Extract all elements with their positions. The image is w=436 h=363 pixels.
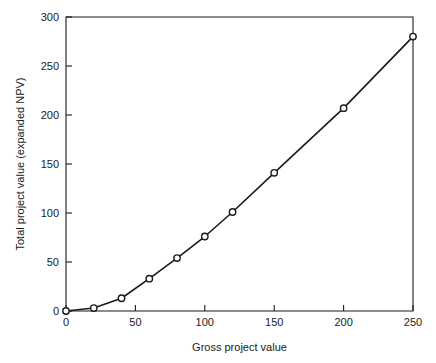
x-tick-label: 0 [63,316,69,328]
data-point-marker [91,305,97,311]
y-tick-label: 250 [41,60,59,72]
x-tick-label: 50 [129,316,141,328]
data-point-marker [118,295,124,301]
x-tick-label: 200 [334,316,352,328]
y-tick-label: 300 [41,11,59,23]
y-tick-label: 0 [53,305,59,317]
data-series-line [66,37,413,311]
y-axis-title: Total project value (expanded NPV) [14,77,26,250]
data-point-marker [202,233,208,239]
data-point-marker [229,209,235,215]
x-tick-label: 250 [404,316,422,328]
y-tick-label: 100 [41,207,59,219]
x-axis-tick-labels: 050100150200250 [63,316,422,328]
x-axis-ticks [66,305,413,311]
x-tick-label: 150 [265,316,283,328]
plot-frame [66,17,413,311]
y-axis-ticks [66,17,72,311]
x-axis-title: Gross project value [192,341,287,353]
data-point-marker [271,170,277,176]
chart-figure: 050100150200250300 050100150200250 Gross… [0,0,436,363]
x-tick-label: 100 [196,316,214,328]
y-tick-label: 150 [41,158,59,170]
data-point-marker [340,105,346,111]
data-series-markers [63,33,416,314]
line-chart: 050100150200250300 050100150200250 Gross… [0,0,436,363]
y-tick-label: 200 [41,109,59,121]
data-point-marker [146,275,152,281]
data-point-marker [63,308,69,314]
data-point-marker [410,33,416,39]
y-tick-label: 50 [47,256,59,268]
y-axis-tick-labels: 050100150200250300 [41,11,59,317]
data-point-marker [174,255,180,261]
